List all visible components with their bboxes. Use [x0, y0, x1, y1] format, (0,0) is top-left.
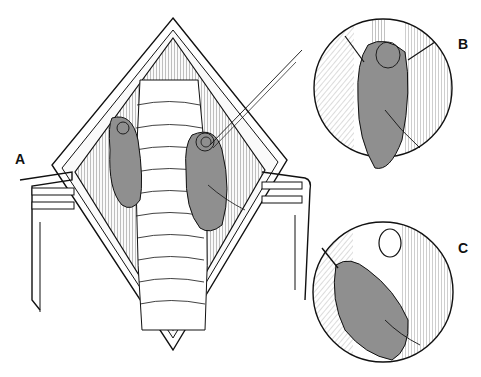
surgical-illustration — [0, 0, 481, 377]
panel-label-b: B — [458, 36, 468, 52]
panel-b-magnified-view — [314, 18, 465, 168]
panel-label-c: C — [458, 240, 468, 256]
panel-c-magnified-view — [313, 222, 465, 362]
panel-label-a: A — [15, 151, 25, 167]
panel-a-incision — [20, 18, 310, 350]
